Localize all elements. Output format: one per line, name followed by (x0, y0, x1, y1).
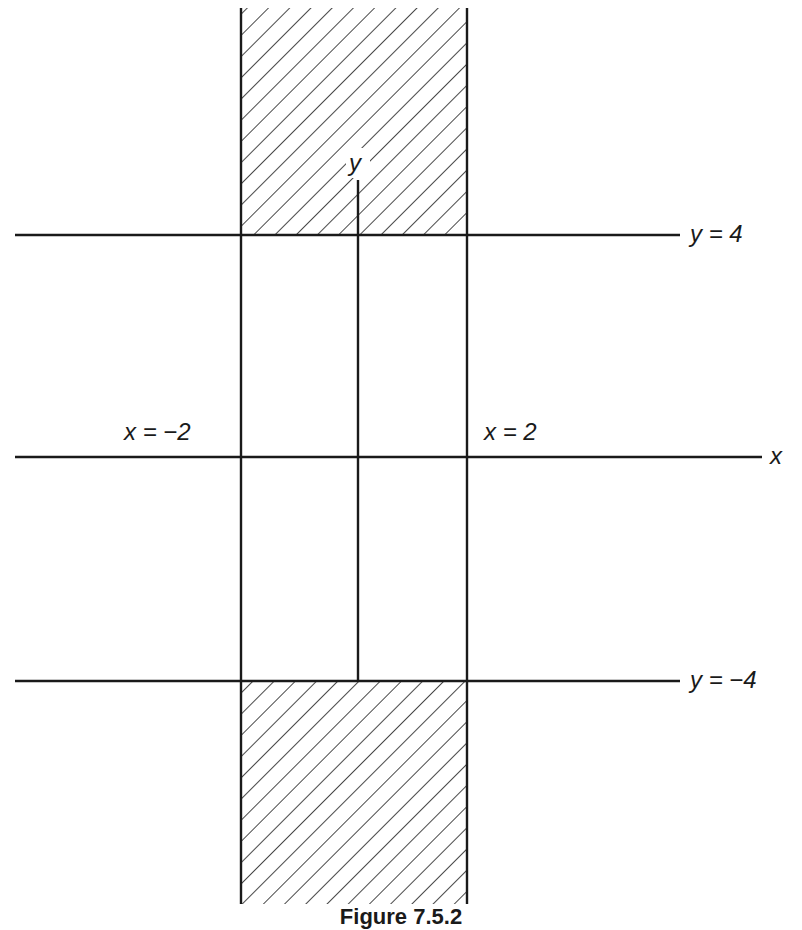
label-x-neg2: x = −2 (124, 420, 191, 444)
label-x-2: x = 2 (484, 420, 537, 444)
label-y-4: y = 4 (690, 222, 743, 246)
figure-caption: Figure 7.5.2 (0, 904, 802, 930)
label-y-neg4: y = −4 (690, 668, 757, 692)
y-axis-label: y (349, 151, 361, 175)
shaded-region-bottom (241, 681, 467, 904)
shaded-region-top (241, 8, 467, 235)
x-axis-label: x (770, 444, 782, 468)
